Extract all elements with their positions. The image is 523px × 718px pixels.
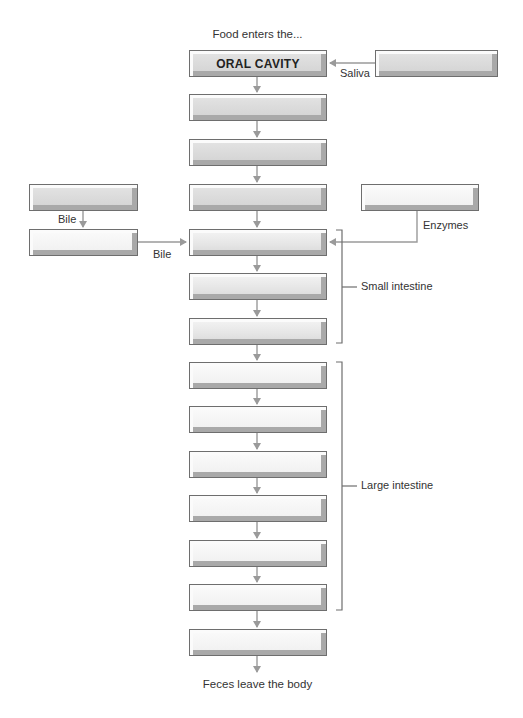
digestive-stage-box-7[interactable] [189, 318, 327, 345]
oral-cavity-box: ORAL CAVITY [189, 50, 327, 77]
enzymes-label: Enzymes [423, 219, 468, 231]
digestive-stage-box-13[interactable] [189, 584, 327, 611]
digestive-stage-box-2[interactable] [189, 94, 327, 121]
large-intestine-bracket [336, 362, 342, 610]
digestive-stage-box-4[interactable] [189, 184, 327, 211]
food-enters-label: Food enters the... [0, 28, 515, 40]
digestive-stage-box-6[interactable] [189, 273, 327, 300]
saliva-source-box[interactable] [375, 50, 498, 77]
saliva-label: Saliva [340, 67, 370, 79]
digestive-stage-box-11[interactable] [189, 495, 327, 522]
digestive-stage-box-3[interactable] [189, 139, 327, 166]
digestive-stage-box-14[interactable] [189, 629, 327, 656]
digestive-stage-box-12[interactable] [189, 540, 327, 567]
enzymes-source-box[interactable] [361, 184, 479, 211]
enzymes-arrow [330, 211, 417, 242]
feces-leave-label: Feces leave the body [0, 678, 515, 690]
large-intestine-label: Large intestine [361, 479, 433, 491]
small-intestine-label: Small intestine [361, 280, 433, 292]
digestive-stage-box-8[interactable] [189, 362, 327, 389]
bile-source-top-box[interactable] [29, 184, 138, 211]
bile-horizontal-label: Bile [153, 248, 171, 260]
digestive-stage-box-5[interactable] [189, 229, 327, 256]
digestive-stage-box-10[interactable] [189, 451, 327, 478]
bile-vertical-label: Bile [58, 213, 76, 225]
small-intestine-bracket [336, 230, 342, 343]
box-label: ORAL CAVITY [216, 57, 300, 71]
bile-source-bottom-box[interactable] [29, 229, 138, 256]
digestive-stage-box-9[interactable] [189, 406, 327, 433]
